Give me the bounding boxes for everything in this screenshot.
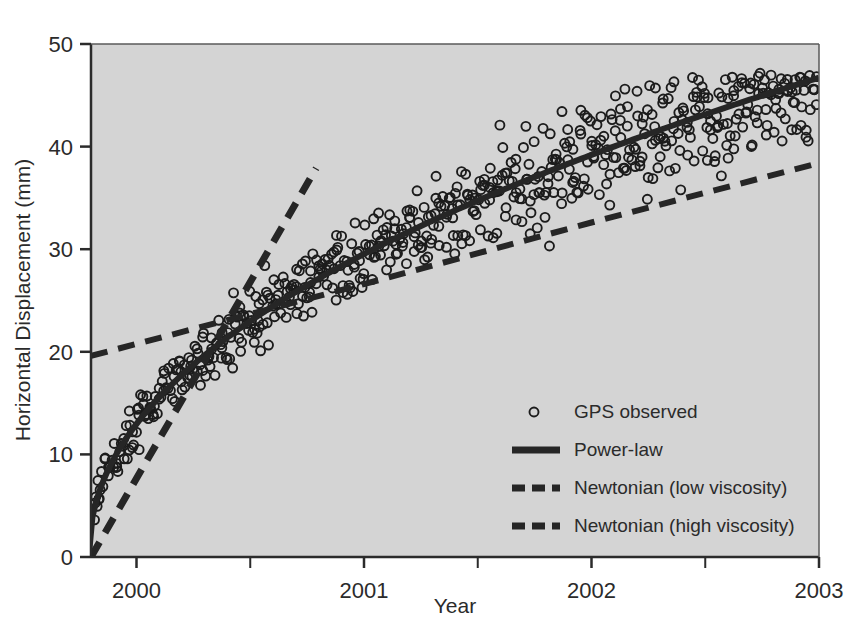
legend-label: GPS observed bbox=[574, 401, 698, 422]
y-tick-label: 40 bbox=[49, 135, 73, 160]
chart-canvas: 200020012002200301020304050 Year Horizon… bbox=[0, 0, 850, 632]
y-tick-label: 10 bbox=[49, 442, 73, 467]
x-tick-label: 2000 bbox=[112, 578, 161, 603]
y-tick-label: 0 bbox=[61, 545, 73, 570]
x-tick-label: 2003 bbox=[795, 578, 844, 603]
legend-label: Newtonian (low viscosity) bbox=[574, 477, 787, 498]
y-tick-label: 50 bbox=[49, 32, 73, 57]
y-tick-label: 30 bbox=[49, 237, 73, 262]
legend-label: Newtonian (high viscosity) bbox=[574, 515, 795, 536]
x-tick-label: 2002 bbox=[567, 578, 616, 603]
y-axis-title: Horizontal Displacement (mm) bbox=[11, 159, 34, 441]
x-tick-label: 2001 bbox=[340, 578, 389, 603]
figure-container: 200020012002200301020304050 Year Horizon… bbox=[0, 0, 850, 632]
y-tick-label: 20 bbox=[49, 340, 73, 365]
legend-label: Power-law bbox=[574, 439, 663, 460]
x-axis-title: Year bbox=[434, 594, 476, 617]
